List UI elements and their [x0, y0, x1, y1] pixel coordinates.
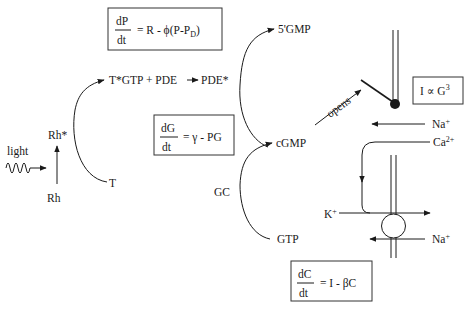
eq-dC-rhs: = I - βC [320, 277, 357, 290]
label-t: T [109, 177, 116, 189]
label-gc: GC [214, 186, 230, 198]
label-light: light [7, 145, 29, 158]
equation-box-current: I ∝ G3 [413, 77, 463, 104]
label-rh: Rh [47, 192, 61, 204]
equation-box-dPdt: dP dt = R - ϕ(P-PD) [108, 8, 222, 50]
label-5gmp: 5'GMP [278, 23, 311, 35]
label-tgtp-pde: T*GTP + PDE [109, 74, 177, 86]
eq-dP-numerator: dP [116, 15, 128, 27]
eq-dG-numerator: dG [161, 122, 175, 134]
label-gtp: GTP [277, 233, 299, 245]
label-opens: opens [324, 94, 354, 121]
label-pde-star: PDE* [201, 74, 229, 86]
eq-dP-denominator: dt [117, 34, 127, 46]
ca-to-exchanger-line [362, 180, 370, 213]
label-k: K+ [324, 207, 337, 220]
arrow-gtp-to-cgmp [240, 143, 272, 239]
label-na-top: Na+ [432, 117, 450, 130]
equation-box-dCdt: dC dt = I - βC [291, 261, 372, 301]
eq-current: I ∝ G3 [420, 83, 450, 97]
channel-gate [361, 80, 393, 102]
equation-box-dGdt: dG dt = γ - PG [154, 115, 234, 155]
eq-dG-rhs: = γ - PG [183, 131, 222, 144]
light-wave-icon: light [6, 145, 46, 173]
na-ca-k-exchanger [382, 155, 406, 258]
label-ca: Ca2+ [433, 135, 455, 148]
eq-dC-numerator: dC [298, 268, 312, 280]
label-na-bottom: Na+ [432, 232, 450, 245]
label-cgmp: cGMP [276, 137, 306, 149]
phototransduction-diagram: dP dt = R - ϕ(P-PD) dG dt = γ - PG dC dt… [0, 0, 474, 316]
exchanger-circle [382, 214, 406, 238]
arrow-t-to-tgtp [74, 80, 107, 182]
label-rh-star: Rh* [48, 129, 67, 141]
eq-dG-denominator: dt [162, 141, 172, 153]
cgmp-gated-channel [361, 30, 400, 109]
arrow-cgmp-to-5gmp [240, 29, 274, 147]
eq-dC-denominator: dt [299, 287, 309, 299]
channel-hinge-dot [390, 99, 400, 109]
